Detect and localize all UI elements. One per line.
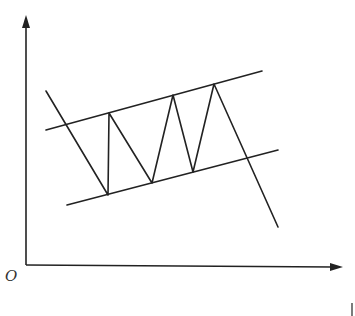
diagram-canvas: O	[0, 0, 355, 316]
x-axis	[26, 265, 333, 267]
lower-channel-line	[67, 150, 278, 205]
x-axis-arrow-icon	[330, 263, 343, 271]
price-path-line	[46, 84, 278, 227]
upper-channel-line	[46, 71, 262, 130]
y-axis-arrow-icon	[22, 15, 30, 28]
origin-label: O	[5, 267, 17, 285]
channel-diagram: O	[0, 0, 355, 316]
